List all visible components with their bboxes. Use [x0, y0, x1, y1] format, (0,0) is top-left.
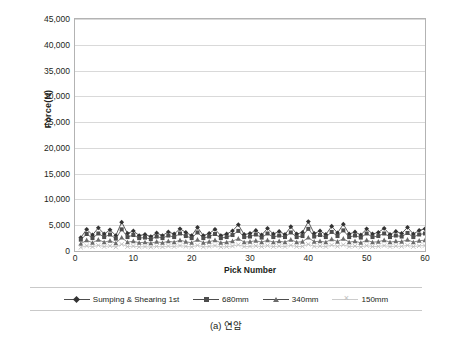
y-tick-label: 35,000: [22, 66, 70, 76]
y-axis-tick-labels: 05,00010,00015,00020,00025,00030,00035,0…: [20, 18, 70, 252]
legend-item: 150mm: [332, 295, 388, 304]
legend-item-label: 150mm: [361, 295, 388, 304]
x-tick-label: 60: [410, 253, 440, 263]
legend-item: Sumping & Shearing 1st: [64, 295, 179, 304]
x-tick-label: 20: [177, 253, 207, 263]
legend-item: 340mm: [263, 295, 319, 304]
y-tick-label: 15,000: [22, 169, 70, 179]
x-tick-label: 30: [235, 253, 265, 263]
y-tick-label: 30,000: [22, 91, 70, 101]
legend-item-label: 680mm: [222, 295, 249, 304]
chart-legend: Sumping & Shearing 1st680mm340mm150mm: [30, 287, 422, 311]
y-tick-label: 25,000: [22, 117, 70, 127]
y-tick-label: 10,000: [22, 194, 70, 204]
legend-item-label: Sumping & Shearing 1st: [93, 295, 179, 304]
diamond-marker-icon: [64, 295, 90, 304]
figure-caption: (a) 연암: [0, 318, 452, 332]
plot-area: [74, 18, 426, 252]
x-tick-label: 0: [60, 253, 90, 263]
legend-item: 680mm: [193, 295, 249, 304]
square-marker-icon: [193, 295, 219, 304]
chart-figure: Force(N) 05,00010,00015,00020,00025,0003…: [0, 0, 452, 351]
x-tick-label: 50: [352, 253, 382, 263]
series-lines: [75, 19, 425, 251]
y-tick-label: 45,000: [22, 14, 70, 24]
x-axis-title: Pick Number: [74, 265, 426, 275]
x-tick-label: 10: [118, 253, 148, 263]
legend-item-label: 340mm: [292, 295, 319, 304]
y-tick-label: 5,000: [22, 220, 70, 230]
x-marker-icon: [332, 295, 358, 304]
y-tick-label: 40,000: [22, 40, 70, 50]
x-tick-label: 40: [293, 253, 323, 263]
y-tick-label: 20,000: [22, 143, 70, 153]
triangle-marker-icon: [263, 295, 289, 304]
